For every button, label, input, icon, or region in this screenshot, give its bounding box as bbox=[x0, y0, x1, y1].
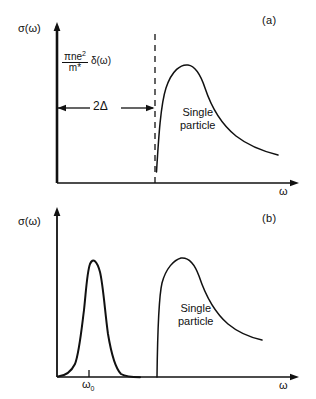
panel-a-y-axis-arrowhead bbox=[54, 22, 61, 31]
panel-b-continuum-label-line1: Single bbox=[178, 302, 213, 315]
panel-a-x-axis-label: ω bbox=[279, 186, 288, 198]
numerator-exponent: 2 bbox=[82, 50, 86, 57]
panel-a-continuum-label-line2: particle bbox=[180, 119, 215, 132]
panel-b-collective-peak-curve bbox=[58, 261, 140, 378]
panel-a-x-axis-arrowhead bbox=[290, 180, 299, 186]
delta-function-term: δ(ω) bbox=[91, 56, 111, 67]
panel-b-tag: (b) bbox=[262, 213, 276, 225]
fraction-denominator: m* bbox=[67, 63, 83, 73]
panel-a-continuum-curve bbox=[157, 65, 279, 172]
omega-symbol: ω bbox=[82, 378, 91, 390]
panel-b-omega0-tick-label: ω0 bbox=[82, 379, 95, 393]
optical-conductivity-figure: σ(ω) (a) πne2 m* δ(ω) 2Δ Single particle… bbox=[0, 0, 316, 399]
panel-b-graphics bbox=[54, 207, 299, 380]
omega-subscript: 0 bbox=[91, 385, 95, 392]
panel-a-continuum-label: Single particle bbox=[180, 106, 215, 131]
figure-canvas bbox=[0, 0, 316, 399]
panel-b-x-axis-label: ω bbox=[279, 380, 288, 392]
panel-a-delta-function-formula: πne2 m* δ(ω) bbox=[62, 50, 111, 73]
panel-a-gap-label: 2Δ bbox=[93, 100, 108, 113]
panel-b-y-axis-label: σ(ω) bbox=[18, 216, 41, 228]
panel-a-continuum-label-line1: Single bbox=[180, 106, 215, 119]
panel-a-tag: (a) bbox=[262, 15, 276, 27]
panel-b-x-axis-arrowhead bbox=[290, 374, 299, 380]
fraction-numerator: πne2 bbox=[62, 50, 88, 62]
panel-a-graphics bbox=[54, 22, 299, 186]
panel-b-y-axis-arrowhead bbox=[54, 207, 61, 216]
panel-b-continuum-label: Single particle bbox=[178, 302, 213, 327]
panel-a-y-axis-label: σ(ω) bbox=[18, 23, 41, 35]
panel-b-continuum-label-line2: particle bbox=[178, 315, 213, 328]
delta-weight-fraction: πne2 m* bbox=[62, 50, 88, 73]
